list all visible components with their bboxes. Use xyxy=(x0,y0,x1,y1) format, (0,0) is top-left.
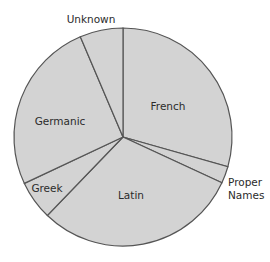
label-latin: Latin xyxy=(118,189,144,201)
pie-chart: FrenchProperNamesLatinGreekGermanicUnkno… xyxy=(0,0,270,262)
label-greek: Greek xyxy=(31,182,63,194)
label-french: French xyxy=(151,100,186,112)
label-proper-names: ProperNames xyxy=(228,176,264,201)
label-germanic: Germanic xyxy=(35,115,86,127)
pie-slices xyxy=(14,28,232,246)
label-unknown: Unknown xyxy=(67,13,116,25)
